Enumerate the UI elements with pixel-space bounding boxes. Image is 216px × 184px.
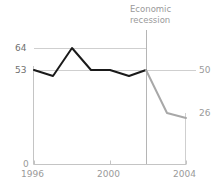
x-label-2004: 2004 [173,170,196,179]
y-label-right-50: 50 [199,66,210,75]
series-after-recession [146,70,186,118]
y-label-right-26: 26 [199,109,210,118]
y-label-left-53: 53 [15,66,26,75]
line-chart: Economic recession 64 53 0 50 26 1996 20… [0,0,216,184]
series-before-recession [34,48,146,76]
annotation-economic-recession: Economic recession [130,4,171,26]
x-label-2000: 2000 [97,170,120,179]
annotation-line-2: recession [130,15,171,26]
annotation-line-1: Economic [130,4,171,15]
chart-canvas [0,0,216,184]
y-label-left-zero: 0 [23,160,29,169]
y-label-left-64: 64 [15,44,26,53]
x-label-1996: 1996 [21,170,44,179]
